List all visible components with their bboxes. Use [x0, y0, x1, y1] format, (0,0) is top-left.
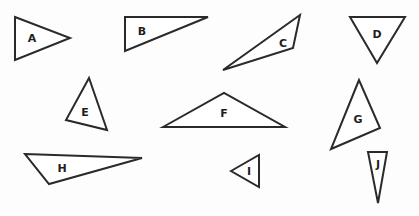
triangle-c: C — [223, 15, 300, 70]
triangle-a-label: A — [28, 32, 37, 45]
triangle-g: G — [331, 80, 380, 149]
triangle-c-label: C — [279, 37, 287, 50]
triangle-i-shape — [231, 155, 259, 187]
triangle-b-label: B — [138, 25, 146, 38]
triangle-f-label: F — [220, 107, 228, 120]
triangle-i: I — [231, 155, 259, 187]
triangle-a: A — [15, 17, 70, 60]
triangle-e: E — [66, 78, 107, 130]
triangle-d: D — [350, 17, 405, 63]
triangle-b: B — [125, 17, 208, 51]
triangle-e-label: E — [81, 106, 89, 119]
triangle-h-shape — [25, 154, 142, 184]
triangle-h: H — [25, 154, 142, 184]
triangle-j-label: J — [375, 158, 380, 171]
triangle-h-label: H — [57, 162, 66, 175]
diagram-canvas: A B C D E F G H — [0, 0, 419, 216]
triangle-diagram: A B C D E F G H — [0, 0, 419, 216]
triangle-e-shape — [66, 78, 107, 130]
triangle-a-shape — [15, 17, 70, 60]
triangle-i-label: I — [247, 165, 251, 178]
triangle-g-label: G — [353, 113, 362, 126]
triangle-f: F — [163, 93, 285, 127]
triangle-c-shape — [223, 15, 300, 70]
triangle-d-label: D — [372, 28, 381, 41]
triangle-j: J — [368, 152, 387, 203]
